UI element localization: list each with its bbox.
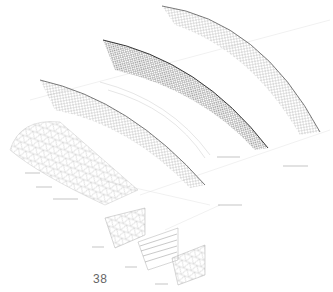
shell-top	[162, 6, 320, 135]
page-number: 38	[93, 272, 107, 286]
triangulated-panel	[10, 122, 138, 205]
detail-panels	[105, 208, 205, 285]
exploded-shell-diagram	[0, 0, 333, 292]
construction-lines	[30, 20, 330, 230]
